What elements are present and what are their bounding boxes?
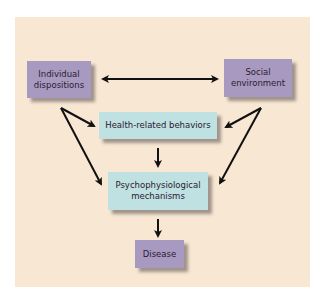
node-individual-dispositions: Individual dispositions [27, 61, 91, 98]
node-label-line: mechanisms [115, 191, 200, 202]
node-health-related-behaviors: Health-related behaviors [99, 112, 217, 139]
node-label: Disease [143, 249, 176, 260]
node-label: Health-related behaviors [105, 120, 210, 131]
node-label-line: Individual [34, 69, 84, 80]
node-psychophysiological-mechanisms: Psychophysiological mechanisms [108, 172, 208, 210]
node-social-environment: Social environment [224, 59, 292, 97]
node-label-line: dispositions [34, 80, 84, 91]
node-disease: Disease [135, 240, 184, 268]
node-label-line: environment [231, 78, 285, 89]
node-label-line: Psychophysiological [115, 180, 200, 191]
node-label-line: Social [231, 67, 285, 78]
